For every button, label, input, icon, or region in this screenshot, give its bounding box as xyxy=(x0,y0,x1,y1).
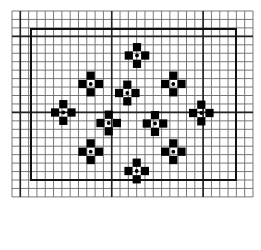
grid-diagram xyxy=(0,0,261,250)
filled-cell xyxy=(169,156,177,164)
filled-cell xyxy=(169,72,177,80)
center-dot-icon xyxy=(199,111,203,115)
filled-cell xyxy=(205,109,213,117)
filled-cell xyxy=(189,109,197,117)
filled-cell xyxy=(133,175,141,183)
filled-cell xyxy=(133,159,141,167)
filled-cell xyxy=(59,117,67,125)
filled-cell xyxy=(87,156,95,164)
filled-cell xyxy=(95,148,103,156)
filled-cell xyxy=(96,119,104,127)
filled-cell xyxy=(197,117,205,125)
filled-cell xyxy=(169,139,177,147)
filled-cell xyxy=(105,127,113,135)
cross-motif xyxy=(161,139,186,164)
filled-cell xyxy=(125,51,133,59)
center-dot-icon xyxy=(89,150,93,154)
filled-cell xyxy=(87,72,95,80)
filled-cell xyxy=(161,148,169,156)
filled-cell xyxy=(133,60,141,68)
cross-motif xyxy=(78,72,103,97)
center-dot-icon xyxy=(61,111,65,115)
center-dot-icon xyxy=(171,82,175,86)
filled-cell xyxy=(105,111,113,119)
filled-cell xyxy=(177,148,185,156)
cross-motif xyxy=(115,81,140,106)
center-dot-icon xyxy=(135,54,139,58)
filled-cell xyxy=(87,88,95,96)
filled-cell xyxy=(78,80,86,88)
filled-cell xyxy=(123,97,131,105)
filled-cell xyxy=(133,43,141,51)
filled-cell xyxy=(177,80,185,88)
center-dot-icon xyxy=(153,122,157,126)
cross-motif xyxy=(161,72,186,97)
filled-cell xyxy=(131,89,139,97)
filled-cell xyxy=(124,167,132,175)
center-dot-icon xyxy=(89,82,93,86)
filled-cell xyxy=(151,128,159,136)
filled-cell xyxy=(115,89,123,97)
filled-cell xyxy=(159,119,167,127)
filled-cell xyxy=(59,100,67,108)
filled-cell xyxy=(113,119,121,127)
filled-cell xyxy=(141,51,149,59)
filled-cell xyxy=(169,88,177,96)
filled-cell xyxy=(143,119,151,127)
center-dot-icon xyxy=(135,169,139,173)
center-dot-icon xyxy=(107,121,111,125)
cross-motif xyxy=(143,111,168,136)
filled-cell xyxy=(51,108,59,116)
cross-motif xyxy=(96,111,121,136)
filled-cell xyxy=(78,148,86,156)
filled-cell xyxy=(151,111,159,119)
filled-cell xyxy=(67,108,75,116)
filled-cell xyxy=(141,167,149,175)
motifs xyxy=(51,43,214,183)
cross-motif xyxy=(78,139,103,164)
filled-cell xyxy=(123,81,131,89)
center-dot-icon xyxy=(125,91,129,95)
filled-cell xyxy=(161,80,169,88)
filled-cell xyxy=(95,80,103,88)
filled-cell xyxy=(197,101,205,109)
center-dot-icon xyxy=(171,150,175,154)
filled-cell xyxy=(87,139,95,147)
